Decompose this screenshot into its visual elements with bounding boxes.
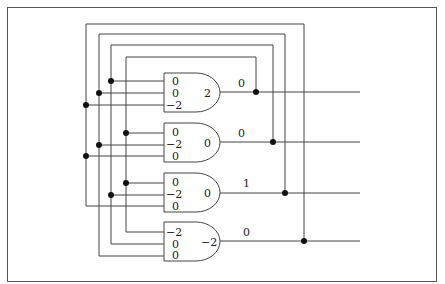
gate-1-sum-label: 2 bbox=[204, 87, 211, 100]
gate-1-output-label: 0 bbox=[238, 77, 245, 90]
diagram-frame bbox=[8, 8, 437, 282]
gate-3-sum-label: 0 bbox=[204, 187, 211, 200]
gate-3-output-label: 1 bbox=[243, 177, 250, 190]
gate-2-output-label: 0 bbox=[238, 127, 245, 140]
gate-2-sum-label: 0 bbox=[204, 137, 211, 150]
circuit-diagram: 0 0 −2 2 0 0 −2 0 0 0 0 −2 0 0 1 −2 0 0 … bbox=[0, 0, 445, 284]
gate-2-input-3-label: 0 bbox=[172, 150, 179, 163]
gate-4-output-label: 0 bbox=[243, 226, 250, 239]
gate-1-input-3-label: −2 bbox=[166, 99, 182, 112]
gate-3-input-3-label: 0 bbox=[172, 200, 179, 213]
gate-4-sum-label: −2 bbox=[201, 236, 217, 249]
gate-4-input-3-label: 0 bbox=[172, 249, 179, 262]
